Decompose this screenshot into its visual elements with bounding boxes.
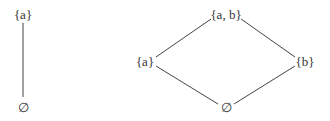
node-b: {b} bbox=[296, 55, 315, 68]
hasse-diagrams: {a} ∅ {a, b} {a} {b} ∅ bbox=[0, 0, 330, 121]
node-a-left: {a} bbox=[14, 8, 32, 21]
edge-a-empty bbox=[156, 66, 218, 104]
edge-ab-b bbox=[241, 19, 295, 57]
node-empty-left: ∅ bbox=[18, 101, 29, 114]
edge-b-empty bbox=[234, 66, 295, 104]
edge-ab-a bbox=[156, 19, 211, 57]
edges-layer bbox=[0, 0, 330, 121]
node-ab: {a, b} bbox=[210, 8, 241, 21]
node-a: {a} bbox=[136, 55, 154, 68]
node-empty: ∅ bbox=[221, 101, 232, 114]
